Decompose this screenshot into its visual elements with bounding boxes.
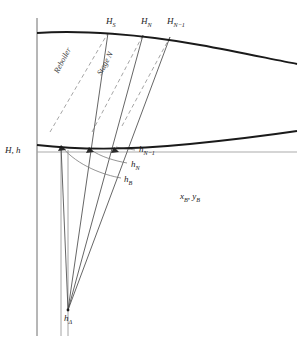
- delta-point-label: hΔ: [64, 314, 72, 325]
- vapor-label-hn-minus-1: HN−1: [167, 17, 185, 28]
- liquid-label-hn-minus-1: hN−1: [139, 145, 155, 156]
- operating-line-2: [68, 35, 143, 310]
- dashed-line-stage-n-minus-1: [122, 37, 170, 126]
- delta-point: [67, 309, 70, 312]
- diagram-canvas: H, h HS HN HN−1 hN−1 hN hB xB, yB hΔ Reb…: [0, 0, 303, 347]
- vapor-label-hs: HS: [106, 17, 116, 28]
- composition-label: xB, yB: [180, 192, 200, 203]
- liquid-label-hn: hN: [131, 160, 140, 171]
- dashed-line-stage-n: [92, 35, 143, 132]
- operating-line-4: [61, 146, 68, 310]
- enthalpy-concentration-plot: [0, 0, 303, 347]
- operating-line-3: [68, 37, 170, 310]
- y-axis-label: H, h: [5, 146, 21, 155]
- vapor-enthalpy-curve: [37, 32, 297, 64]
- liquid-label-hb: hB: [124, 175, 132, 186]
- liquid-enthalpy-curve: [37, 131, 297, 149]
- vapor-label-hn: HN: [141, 17, 152, 28]
